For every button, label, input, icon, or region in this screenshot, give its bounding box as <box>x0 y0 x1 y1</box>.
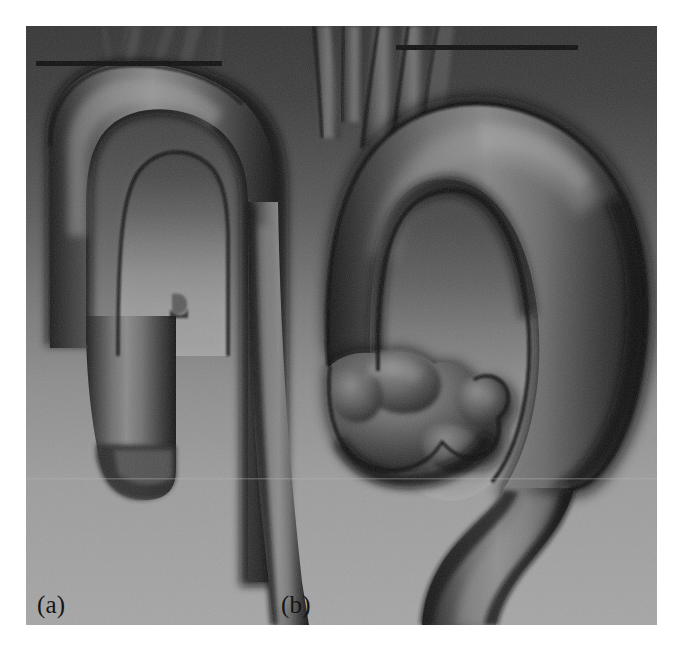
rendered-image-canvas <box>26 26 657 625</box>
vessel-rendering-svg <box>26 26 657 625</box>
panel-label-b: (b) <box>281 592 311 617</box>
film-grain <box>26 26 657 625</box>
figure-root: (a) (b) <box>0 0 684 651</box>
panel-label-a: (a) <box>37 592 65 617</box>
